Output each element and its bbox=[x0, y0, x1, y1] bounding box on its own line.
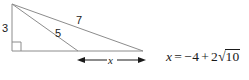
label-dimension-x: x bbox=[107, 54, 113, 66]
right-angle-marker-icon bbox=[12, 42, 21, 51]
arrowhead-left-icon bbox=[77, 57, 85, 63]
equation-radical: √10 bbox=[218, 49, 240, 65]
label-outer-hypotenuse: 7 bbox=[76, 14, 82, 26]
triangle-diagram: 3 5 7 x bbox=[0, 0, 249, 80]
equation-first-term: −4 bbox=[184, 49, 199, 64]
geometry-figure: 3 5 7 x x=−4+2√10 bbox=[0, 0, 249, 80]
equation: x=−4+2√10 bbox=[166, 49, 240, 65]
equation-plus-sign: + bbox=[199, 49, 211, 64]
arrowhead-right-icon bbox=[138, 57, 146, 63]
inner-cevian-line bbox=[12, 4, 78, 51]
outer-hypotenuse-line bbox=[12, 4, 143, 51]
equation-coefficient: 2 bbox=[211, 49, 218, 64]
equation-radicand: 10 bbox=[225, 49, 240, 64]
label-vertical-leg: 3 bbox=[2, 22, 8, 34]
equation-equals-sign: = bbox=[172, 49, 184, 64]
label-inner-segment: 5 bbox=[55, 27, 61, 39]
